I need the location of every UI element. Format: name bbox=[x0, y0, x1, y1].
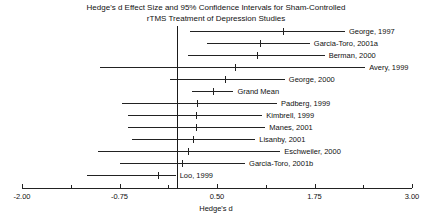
x-axis-tick-label: -0.75 bbox=[111, 192, 128, 201]
study-label: Berman, 2000 bbox=[329, 50, 376, 62]
study-row: Berman, 2000 bbox=[0, 50, 432, 62]
effect-size-marker bbox=[225, 76, 226, 83]
x-axis-tick bbox=[22, 184, 23, 188]
study-row: George, 1997 bbox=[0, 26, 432, 38]
effect-size-marker bbox=[188, 148, 189, 155]
x-axis: -2.00-0.750.501.753.00 Hedge's d bbox=[0, 188, 432, 220]
effect-size-marker bbox=[182, 160, 183, 167]
effect-size-marker bbox=[197, 100, 198, 107]
study-label: Padberg, 1999 bbox=[281, 98, 330, 110]
effect-size-marker bbox=[260, 40, 261, 47]
confidence-interval-line bbox=[190, 31, 345, 32]
x-axis-tick-label: -2.00 bbox=[13, 192, 30, 201]
effect-size-marker bbox=[158, 172, 159, 179]
study-row: Avery, 1999 bbox=[0, 62, 432, 74]
x-axis-tick-label: 1.75 bbox=[307, 192, 322, 201]
study-label: Kimbrell, 1999 bbox=[266, 110, 314, 122]
study-rows: George, 1997Garcia-Toro, 2001aBerman, 20… bbox=[0, 26, 432, 182]
study-row: Lisanby, 2001 bbox=[0, 134, 432, 146]
study-row: Manes, 2001 bbox=[0, 122, 432, 134]
study-row: Garcia-Toro, 2001a bbox=[0, 38, 432, 50]
study-label: Grand Mean bbox=[237, 86, 279, 98]
x-axis-tick bbox=[217, 184, 218, 188]
x-axis-tick-label: 3.00 bbox=[405, 192, 420, 201]
effect-size-marker bbox=[235, 64, 236, 71]
study-row: Garcia-Toro, 2001b bbox=[0, 158, 432, 170]
study-label: Loo, 1999 bbox=[180, 170, 213, 182]
effect-size-marker bbox=[196, 112, 197, 119]
chart-title: Hedge's d Effect Size and 95% Confidence… bbox=[0, 3, 432, 24]
study-label: Eschweiler, 2000 bbox=[284, 146, 341, 158]
effect-size-marker bbox=[283, 28, 284, 35]
study-label: Lisanby, 2001 bbox=[259, 134, 305, 146]
study-label: Manes, 2001 bbox=[269, 122, 312, 134]
chart-title-line-2: rTMS Treatment of Depression Studies bbox=[0, 14, 432, 25]
x-axis-tick bbox=[315, 184, 316, 188]
study-row: Padberg, 1999 bbox=[0, 98, 432, 110]
study-label: Avery, 1999 bbox=[369, 62, 408, 74]
confidence-interval-line bbox=[87, 175, 176, 176]
study-row: Eschweiler, 2000 bbox=[0, 146, 432, 158]
confidence-interval-line bbox=[207, 43, 310, 44]
confidence-interval-line bbox=[170, 79, 285, 80]
study-row: Kimbrell, 1999 bbox=[0, 110, 432, 122]
effect-size-marker bbox=[213, 88, 214, 95]
x-axis-tick-label: 0.50 bbox=[210, 192, 225, 201]
x-axis-tick bbox=[412, 184, 413, 188]
x-axis-minor-tick bbox=[363, 185, 364, 188]
x-axis-line bbox=[22, 188, 412, 189]
x-axis-minor-tick bbox=[71, 185, 72, 188]
study-label: George, 2000 bbox=[289, 74, 335, 86]
effect-size-marker bbox=[193, 136, 194, 143]
x-axis-tick bbox=[120, 184, 121, 188]
effect-size-marker bbox=[196, 124, 197, 131]
chart-title-line-1: Hedge's d Effect Size and 95% Confidence… bbox=[0, 3, 432, 14]
x-axis-minor-tick bbox=[168, 185, 169, 188]
study-row: Loo, 1999 bbox=[0, 170, 432, 182]
x-axis-minor-tick bbox=[266, 185, 267, 188]
study-row: Grand Mean bbox=[0, 86, 432, 98]
effect-size-marker bbox=[257, 52, 258, 59]
study-label: George, 1997 bbox=[349, 26, 395, 38]
forest-plot: Hedge's d Effect Size and 95% Confidence… bbox=[0, 0, 432, 220]
study-label: Garcia-Toro, 2001a bbox=[314, 38, 378, 50]
study-row: George, 2000 bbox=[0, 74, 432, 86]
study-label: Garcia-Toro, 2001b bbox=[249, 158, 313, 170]
x-axis-label: Hedge's d bbox=[0, 204, 432, 213]
confidence-interval-line bbox=[100, 67, 365, 68]
confidence-interval-line bbox=[122, 103, 277, 104]
